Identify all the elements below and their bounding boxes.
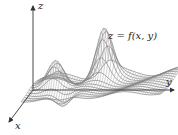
y-axis-label: y bbox=[166, 76, 172, 87]
equation-label: z = f(x, y) bbox=[108, 30, 157, 41]
z-axis-label: z bbox=[38, 0, 43, 11]
surface-plot bbox=[0, 0, 178, 135]
x-axis bbox=[9, 90, 33, 122]
x-axis-label: x bbox=[15, 120, 21, 131]
surface-plot-figure: z y x z = f(x, y) bbox=[0, 0, 178, 135]
